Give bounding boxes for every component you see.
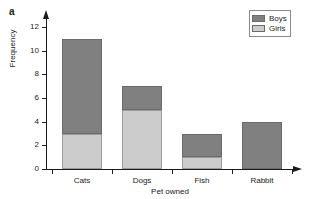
bar-group[interactable] bbox=[242, 20, 282, 169]
y-tick-label: 2 bbox=[0, 141, 39, 149]
x-tick-label: Rabbit bbox=[234, 176, 290, 185]
bar-group[interactable] bbox=[182, 20, 222, 169]
bar-segment-girls[interactable] bbox=[122, 110, 162, 169]
legend-label: Boys bbox=[269, 15, 287, 23]
legend-item[interactable]: Boys bbox=[252, 14, 287, 23]
bar-segment-boys[interactable] bbox=[62, 39, 102, 134]
legend-item[interactable]: Girls bbox=[252, 24, 287, 33]
y-tick-label: 8 bbox=[0, 70, 39, 78]
y-tick-label: 4 bbox=[0, 118, 39, 126]
legend: BoysGirls bbox=[249, 10, 291, 37]
x-tick-mark bbox=[172, 170, 173, 174]
bar-group[interactable] bbox=[62, 20, 102, 169]
x-tick-mark bbox=[292, 170, 293, 174]
bar-segment-girls[interactable] bbox=[182, 157, 222, 169]
x-tick-mark bbox=[52, 170, 53, 174]
plot-area bbox=[46, 20, 296, 169]
bar-segment-girls[interactable] bbox=[62, 134, 102, 170]
x-tick-mark bbox=[112, 170, 113, 174]
y-tick-label: 0 bbox=[0, 165, 39, 173]
x-tick-label: Fish bbox=[174, 176, 230, 185]
bar-segment-boys[interactable] bbox=[242, 122, 282, 169]
y-tick-label: 6 bbox=[0, 94, 39, 102]
legend-swatch-icon bbox=[252, 15, 265, 22]
bar-group[interactable] bbox=[122, 20, 162, 169]
y-axis-title: Frequency bbox=[8, 4, 17, 94]
y-tick-mark bbox=[42, 169, 46, 170]
x-axis-title: Pet owned bbox=[46, 187, 294, 196]
y-axis-arrow-icon bbox=[43, 10, 49, 19]
x-tick-label: Cats bbox=[54, 176, 110, 185]
figure: a 024681012 CatsDogsFishRabbit Frequency… bbox=[0, 0, 313, 199]
y-tick-label: 10 bbox=[0, 47, 39, 55]
y-tick-label: 12 bbox=[0, 23, 39, 31]
x-tick-mark bbox=[232, 170, 233, 174]
x-axis-line bbox=[46, 169, 294, 170]
legend-label: Girls bbox=[269, 25, 285, 33]
x-tick-label: Dogs bbox=[114, 176, 170, 185]
legend-swatch-icon bbox=[252, 25, 265, 32]
bar-segment-boys[interactable] bbox=[182, 134, 222, 158]
bar-segment-boys[interactable] bbox=[122, 86, 162, 110]
